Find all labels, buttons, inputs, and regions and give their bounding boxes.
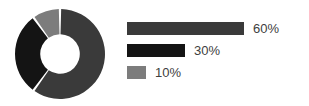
chart-screenshot: 60% 30% 10%: [0, 0, 309, 106]
legend-swatch-10: [127, 66, 146, 79]
legend-swatch-60: [127, 22, 244, 35]
donut-chart-svg: [12, 6, 108, 102]
legend-item-30[interactable]: 30%: [127, 43, 220, 57]
legend-item-10[interactable]: 10%: [127, 65, 181, 79]
legend-swatch-30: [127, 44, 185, 57]
donut-slice-group: [15, 9, 105, 99]
legend-label-30: 30%: [194, 44, 220, 57]
legend-label-10: 10%: [155, 66, 181, 79]
legend-item-60[interactable]: 60%: [127, 21, 279, 35]
legend-label-60: 60%: [253, 22, 279, 35]
donut-chart: [12, 6, 108, 102]
chart-legend: 60% 30% 10%: [127, 16, 302, 92]
